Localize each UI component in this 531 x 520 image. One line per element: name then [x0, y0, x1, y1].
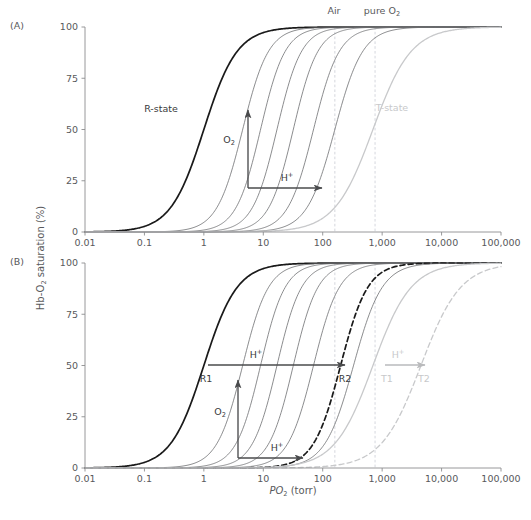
- curve-label-t-state: T-state: [375, 102, 409, 113]
- x-axis-title: PO2 (torr): [269, 485, 316, 498]
- y-tick-label-A-1: 25: [66, 175, 78, 186]
- x-tick-label-A-6: 10,000: [425, 237, 458, 248]
- x-tick-label-A-4: 100: [314, 237, 332, 248]
- y-tick-label-B-3: 75: [66, 309, 78, 320]
- x-tick-label-A-5: 1,000: [369, 237, 396, 248]
- x-tick-label-B-5: 1,000: [369, 473, 396, 484]
- x-tick-label-A-0: 0.01: [74, 237, 95, 248]
- x-tick-label-B-2: 1: [201, 473, 207, 484]
- curve-label-r1: R1: [200, 373, 213, 384]
- y-tick-label-A-2: 50: [66, 124, 78, 135]
- y-tick-label-A-0: 0: [72, 226, 78, 237]
- curve-label-t1: T1: [380, 373, 393, 384]
- curve-intermediate-4: [85, 27, 501, 232]
- axes-layer: [82, 27, 502, 472]
- y-tick-label-B-1: 25: [66, 411, 78, 422]
- x-tick-label-A-7: 100,000: [481, 237, 520, 248]
- y-tick-label-A-3: 75: [66, 73, 78, 84]
- x-tick-label-A-1: 0.1: [137, 237, 152, 248]
- x-tick-label-B-3: 10: [257, 473, 269, 484]
- x-tick-label-A-3: 10: [257, 237, 269, 248]
- x-tick-label-B-7: 100,000: [481, 473, 520, 484]
- h-plus-arrow-upper-label-B: H+: [250, 348, 263, 360]
- reference-label-pure-o2: pure O2: [364, 5, 400, 18]
- panel-letter-B: (B): [10, 256, 24, 267]
- x-tick-label-B-4: 100: [314, 473, 332, 484]
- x-tick-label-A-2: 1: [201, 237, 207, 248]
- y-axis-title: Hb-O2 saturation (%): [35, 206, 48, 311]
- x-tick-label-B-6: 10,000: [425, 473, 458, 484]
- y-tick-label-A-4: 100: [60, 21, 78, 32]
- y-tick-label-B-4: 100: [60, 257, 78, 268]
- curve-label-t2: T2: [417, 373, 430, 384]
- x-tick-label-B-0: 0.01: [74, 473, 95, 484]
- curve-label-r-state: R-state: [144, 103, 178, 114]
- y-tick-label-B-2: 50: [66, 360, 78, 371]
- x-tick-label-B-1: 0.1: [137, 473, 152, 484]
- panel-letter-A: (A): [10, 20, 24, 31]
- reference-label-air: Air: [327, 5, 340, 16]
- o2-arrow-label-B: O2: [214, 406, 226, 419]
- text-labels-layer: Airpure O202550751000.010.11101001,00010…: [10, 5, 521, 498]
- curve-label-r2: R2: [339, 373, 352, 384]
- oxygen-dissociation-figure: Airpure O202550751000.010.11101001,00010…: [0, 0, 531, 520]
- o2-arrow-label-A: O2: [223, 134, 235, 147]
- y-tick-label-B-0: 0: [72, 462, 78, 473]
- h-plus-arrow-lower-label-B: H+: [271, 441, 284, 453]
- h-plus-arrow-label-A: H+: [281, 171, 294, 183]
- h-plus-arrow-t-label-B: H+: [392, 348, 405, 360]
